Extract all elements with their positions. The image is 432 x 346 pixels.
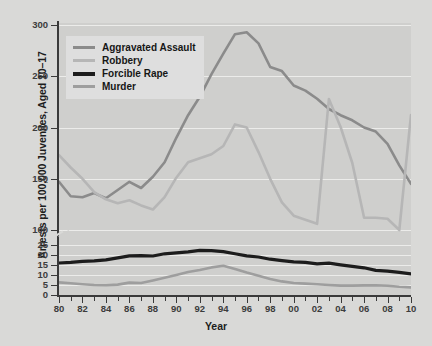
x-axis-title: Year (0, 320, 432, 332)
x-axis-tick-label: 10 (399, 303, 423, 314)
x-axis-tick-label: 96 (235, 303, 259, 314)
x-axis-tick (305, 297, 306, 301)
x-axis-tick (376, 297, 377, 301)
y-axis-tick-label: 0 (2, 289, 48, 300)
legend: Aggravated Assault Robbery Forcible Rape… (66, 36, 204, 99)
x-axis-tick-label: 82 (70, 303, 94, 314)
legend-item-murder: Murder (73, 80, 196, 93)
x-axis-tick (118, 297, 119, 301)
legend-item-forcible-rape: Forcible Rape (73, 67, 196, 80)
y-axis-tick (51, 179, 58, 180)
x-axis-tick-label: 88 (141, 303, 165, 314)
legend-label: Murder (102, 81, 136, 92)
legend-swatch-icon (73, 72, 95, 76)
y-axis-tick (51, 265, 58, 266)
x-axis-tick-label: 92 (188, 303, 212, 314)
legend-label: Forcible Rape (102, 68, 168, 79)
y-axis-tick (51, 128, 58, 129)
legend-swatch-icon (73, 85, 95, 88)
x-axis-tick-label: 04 (329, 303, 353, 314)
y-axis-tick (51, 295, 58, 296)
x-axis-tick (141, 297, 142, 301)
legend-item-robbery: Robbery (73, 54, 196, 67)
y-axis-tick (51, 275, 58, 276)
y-axis-tick-label: 300 (2, 19, 48, 30)
x-axis-tick (258, 297, 259, 301)
x-axis-tick-label: 94 (211, 303, 235, 314)
y-axis-tick-label: 150 (2, 173, 48, 184)
legend-label: Aggravated Assault (102, 42, 196, 53)
x-axis-tick (188, 297, 189, 301)
x-axis-tick (352, 297, 353, 301)
x-axis-tick-label: 08 (376, 303, 400, 314)
legend-swatch-icon (73, 46, 95, 49)
x-axis-tick (212, 297, 213, 301)
x-axis-tick-label: 80 (47, 303, 71, 314)
legend-swatch-icon (73, 59, 95, 62)
x-axis-tick-label: 86 (117, 303, 141, 314)
x-axis-tick (165, 297, 166, 301)
series-line-murder (59, 266, 411, 288)
x-axis-tick (399, 297, 400, 301)
legend-item-aggravated-assault: Aggravated Assault (73, 41, 196, 54)
x-axis-line (57, 295, 411, 297)
x-axis-tick (71, 297, 72, 301)
y-axis-tick-label: 250 (2, 70, 48, 81)
x-axis-tick-label: 02 (305, 303, 329, 314)
x-axis-tick-label: 98 (258, 303, 282, 314)
y-axis-tick (51, 230, 58, 231)
x-axis-tick (94, 297, 95, 301)
y-axis-tick-label: 200 (2, 122, 48, 133)
chart-container: Arrests per 100,000 Juveniles, Aged 10–1… (0, 0, 432, 346)
x-axis-tick (235, 297, 236, 301)
y-axis-tick (51, 285, 58, 286)
x-axis-tick-label: 06 (352, 303, 376, 314)
x-axis-tick-label: 84 (94, 303, 118, 314)
y-axis-tick (51, 255, 58, 256)
y-axis-tick (51, 76, 58, 77)
series-line-robbery (59, 99, 411, 230)
x-axis-tick-label: 00 (282, 303, 306, 314)
y-axis-tick (51, 245, 58, 246)
x-axis-tick (329, 297, 330, 301)
legend-label: Robbery (102, 55, 143, 66)
y-axis-tick (51, 25, 58, 26)
y-axis-tick-label: 100 (2, 224, 48, 235)
x-axis-tick (282, 297, 283, 301)
x-axis-tick-label: 90 (164, 303, 188, 314)
